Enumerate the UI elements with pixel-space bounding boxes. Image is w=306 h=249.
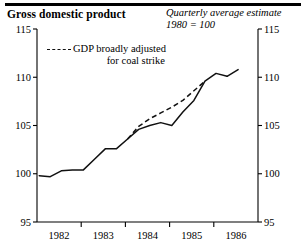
y-axis-left: 95100105110115 <box>15 24 37 228</box>
x-axis: 19821983198419851986 <box>37 222 258 241</box>
chart-plot-area: 95100105110115 95100105110115 1982198319… <box>0 0 306 249</box>
x-tick-label: 1985 <box>181 230 202 241</box>
x-tick-label: 1984 <box>137 230 159 241</box>
y-tick-label-left: 100 <box>15 168 31 179</box>
x-tick-label: 1983 <box>93 230 114 241</box>
y-tick-label-left: 115 <box>16 24 31 35</box>
x-tick-label: 1982 <box>49 230 70 241</box>
gdp-chart-figure: Gross domestic product Quarterly average… <box>0 0 306 249</box>
y-tick-label-right: 95 <box>264 217 275 228</box>
y-tick-label-left: 105 <box>15 120 31 131</box>
y-tick-label-left: 110 <box>16 72 31 83</box>
y-tick-label-left: 95 <box>21 217 32 228</box>
y-tick-label-right: 105 <box>264 120 280 131</box>
y-axis-right: 95100105110115 <box>258 24 280 228</box>
series-line-gdp <box>39 73 227 176</box>
x-tick-label: 1986 <box>225 230 246 241</box>
y-tick-label-right: 115 <box>264 24 279 35</box>
y-tick-label-right: 110 <box>264 72 279 83</box>
series-line-gdp <box>227 70 238 77</box>
y-tick-label-right: 100 <box>264 168 280 179</box>
data-series-layer <box>39 70 238 177</box>
series-line-adjusted <box>128 81 205 139</box>
